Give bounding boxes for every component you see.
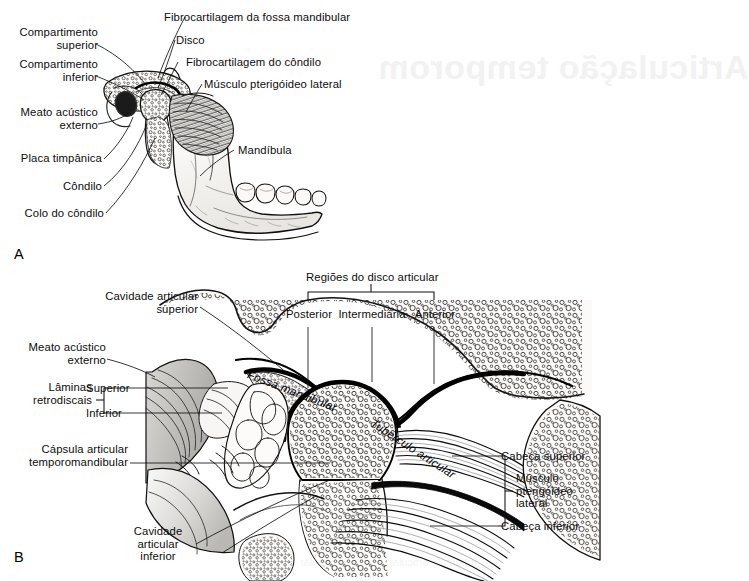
label-regioes-do-disco-articular: Regiões do disco articular [306,271,438,284]
label-cabeca-superior: Cabeça superior [501,450,585,463]
label-regiao-intermediaria: Intermediária [335,308,409,321]
label-regiao-posterior: Posterior [279,308,339,321]
label-capsula-articular-temporomandibular: Cápsula articular temporomandibular [2,443,128,468]
label-cabeca-inferior: Cabeça inferior [501,520,579,533]
label-meato-acustico-externo-b: Meato acústico externo [0,341,106,366]
label-musculo-pterigoideo-lateral-b: Músculo pterigóideo lateral [516,472,604,510]
label-cavidade-articular-superior: Cavidade articular superior [84,290,198,315]
label-lamina-inferior: Inferior [86,407,122,420]
label-regiao-anterior: Anterior [407,308,463,321]
panel-b-letter: B [14,549,24,565]
label-lamina-superior: Superior [86,382,130,395]
label-laminas-retrodiscais: Lâminas retrodiscais [0,381,92,406]
label-cavidade-articular-inferior: Cavidade articular inferior [120,525,196,563]
